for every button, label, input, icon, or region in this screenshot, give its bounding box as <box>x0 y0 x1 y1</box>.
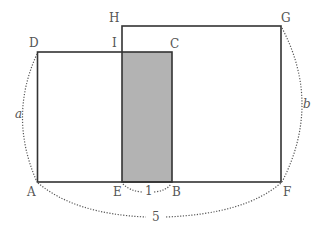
dotted-arc-5-right <box>166 183 281 217</box>
measure-label-b: b <box>303 98 311 110</box>
dotted-arc-5-left <box>38 183 146 217</box>
point-label-a: A <box>27 186 36 198</box>
shaded-region-iebc <box>122 52 172 182</box>
point-label-f: F <box>283 186 291 198</box>
measure-label-a: a <box>15 108 22 120</box>
point-label-i: I <box>112 37 117 49</box>
measure-label-5: 5 <box>152 211 160 223</box>
dotted-arc-a <box>23 54 38 182</box>
geometry-diagram: D A H I C G E B F a b 1 5 <box>0 0 322 236</box>
point-label-h: H <box>109 12 119 24</box>
point-label-g: G <box>281 12 291 24</box>
diagram-svg <box>0 0 322 236</box>
dotted-arc-b <box>282 28 302 182</box>
point-label-d: D <box>29 37 39 49</box>
point-label-c: C <box>170 38 179 50</box>
dotted-arc-1-left <box>123 184 142 192</box>
dotted-arc-1-right <box>154 184 171 192</box>
point-label-e: E <box>113 186 122 198</box>
measure-label-1: 1 <box>145 185 153 197</box>
point-label-b: B <box>172 186 181 198</box>
